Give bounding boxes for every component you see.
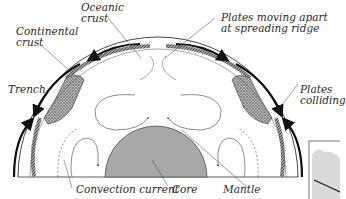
- label-continental-line2: crust: [16, 37, 78, 48]
- label-oceanic-line2: crust: [81, 13, 124, 24]
- label-convection-current: Convection current: [76, 184, 179, 195]
- label-moving-apart-line2: at spreading ridge: [221, 23, 328, 34]
- label-core: Core: [172, 184, 198, 195]
- label-continental-crust: Continental crust: [16, 26, 78, 48]
- core-shape: [105, 126, 207, 177]
- label-mantle: Mantle: [223, 184, 261, 195]
- inset-thumbnail: [309, 141, 340, 199]
- label-trench: Trench: [8, 84, 46, 95]
- continental-crust: [44, 75, 272, 124]
- label-plates-moving-apart: Plates moving apart at spreading ridge: [221, 12, 328, 34]
- label-oceanic-crust: Oceanic crust: [81, 2, 124, 24]
- label-colliding-line2: colliding: [300, 95, 346, 106]
- label-plates-colliding: Plates colliding: [300, 84, 346, 106]
